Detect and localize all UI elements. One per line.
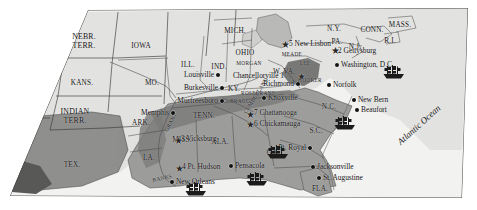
ship-florida-coast-icon — [267, 145, 289, 160]
ship-icons-layer — [0, 0, 477, 210]
ship-carolina-coast-icon — [334, 116, 356, 131]
civil-war-map: Atlantic Ocean NEBR.TERR.IOWAKANS.MO.ILL… — [0, 0, 477, 210]
ship-gulf-mississippi-icon — [185, 182, 207, 197]
ship-atlantic-virginia-icon — [383, 65, 405, 80]
ship-gulf-pensacola-icon — [246, 172, 268, 187]
